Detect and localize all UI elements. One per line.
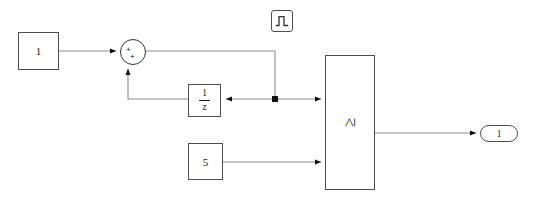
- output-port-label: 1: [497, 129, 502, 139]
- relational-operator-glyph: ≥: [342, 118, 359, 127]
- unit-delay-denominator: z: [202, 102, 206, 113]
- constant-block-five[interactable]: 5: [188, 143, 223, 180]
- output-port-block[interactable]: 1: [480, 125, 518, 142]
- signal-wire-layer: [0, 0, 534, 204]
- fraction-bar: [199, 100, 210, 101]
- relational-operator-block[interactable]: ≥: [325, 55, 375, 190]
- pulse-generator-block[interactable]: [271, 10, 293, 32]
- unit-delay-block[interactable]: 1 z: [188, 84, 221, 117]
- square-pulse-icon: [275, 15, 289, 27]
- sum-block[interactable]: + +: [120, 39, 146, 65]
- junction-dot: [272, 96, 278, 102]
- wire-delay-to-sum: [128, 69, 188, 99]
- unit-delay-numerator: 1: [202, 89, 207, 100]
- block-diagram-canvas: 1 + + 1 z 5 ≥ 1: [0, 0, 534, 204]
- constant-one-label: 1: [36, 45, 42, 57]
- sum-sign-input-2: +: [130, 53, 135, 61]
- constant-block-one[interactable]: 1: [18, 32, 59, 70]
- constant-five-label: 5: [203, 156, 209, 168]
- unit-delay-fraction: 1 z: [199, 89, 210, 113]
